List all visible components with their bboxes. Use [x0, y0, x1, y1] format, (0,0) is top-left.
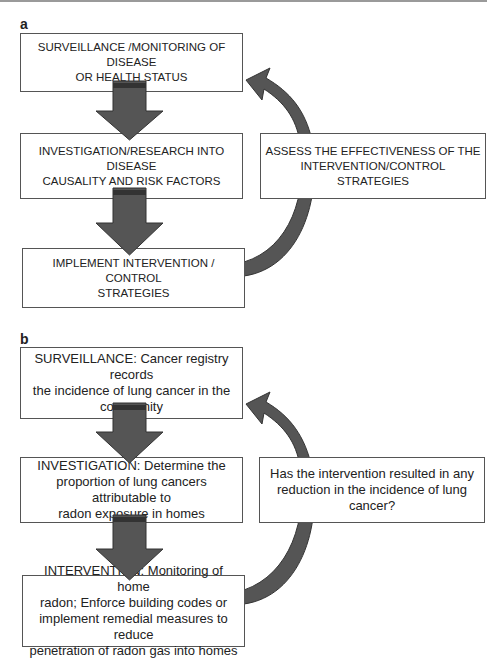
- panel-a-assess-text: ASSESS THE EFFECTIVENESS OF THE INTERVEN…: [265, 144, 481, 189]
- panel-b-question-box: Has the intervention resulted in any red…: [259, 457, 485, 523]
- panel-a-intervention-box: IMPLEMENT INTERVENTION / CONTROL STRATEG…: [22, 248, 245, 308]
- panel-a-surveillance-box: SURVEILLANCE /MONITORING OF DISEASE OR H…: [20, 33, 243, 92]
- panel-a-investigation-text: INVESTIGATION/RESEARCH INTO DISEASE CAUS…: [25, 144, 238, 189]
- panel-b-investigation-box: INVESTIGATION: Determine the proportion …: [20, 457, 243, 523]
- panel-a-assess-box: ASSESS THE EFFECTIVENESS OF THE INTERVEN…: [260, 133, 486, 199]
- panel-a-investigation-box: INVESTIGATION/RESEARCH INTO DISEASE CAUS…: [20, 133, 243, 199]
- panel-a-label: a: [20, 16, 28, 32]
- top-rule: [0, 0, 487, 2]
- panel-b-intervention-text: INTERVENTION: Monitoring of home radon; …: [27, 563, 240, 659]
- panel-b-surveillance-box: SURVEILLANCE: Cancer registry records th…: [20, 347, 243, 419]
- panel-b-surveillance-text: SURVEILLANCE: Cancer registry records th…: [25, 351, 238, 415]
- panel-b-label: b: [20, 331, 29, 347]
- panel-b-intervention-box: INTERVENTION: Monitoring of home radon; …: [22, 575, 245, 647]
- panel-a-intervention-text: IMPLEMENT INTERVENTION / CONTROL STRATEG…: [27, 256, 240, 301]
- panel-b-question-text: Has the intervention resulted in any red…: [264, 466, 480, 514]
- panel-b-investigation-text: INVESTIGATION: Determine the proportion …: [25, 458, 238, 522]
- panel-a-surveillance-text: SURVEILLANCE /MONITORING OF DISEASE OR H…: [25, 40, 238, 85]
